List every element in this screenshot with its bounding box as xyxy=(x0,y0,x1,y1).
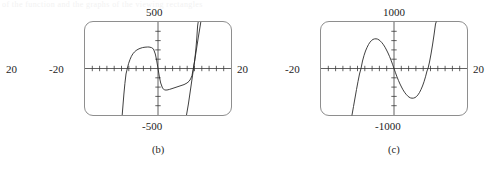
figure-root: of the function and the graphs of the vi… xyxy=(0,0,503,173)
panel-b-caption: (b) xyxy=(152,145,164,156)
panel-c-bottom-axis-label: -1000 xyxy=(375,121,401,132)
panel-c-plot xyxy=(321,22,467,115)
panel-b-viewing-rectangle xyxy=(84,21,232,116)
panel-b-left-axis-label: -20 xyxy=(49,64,64,75)
panel-c-viewing-rectangle xyxy=(320,21,468,116)
panel-b-plot xyxy=(85,22,231,115)
panel-c: 1000 xyxy=(255,0,503,173)
panel-c-left-axis-label: -20 xyxy=(285,64,300,75)
panel-b-right-axis-label: 20 xyxy=(237,64,248,75)
panel-c-top-axis-label: 1000 xyxy=(383,7,405,18)
panel-c-right-axis-label: 20 xyxy=(473,64,484,75)
panel-b-top-axis-label: 500 xyxy=(146,7,163,18)
panel-b: 500 xyxy=(0,0,255,173)
panel-c-caption: (c) xyxy=(388,145,400,156)
panel-b-bottom-axis-label: -500 xyxy=(142,121,162,132)
